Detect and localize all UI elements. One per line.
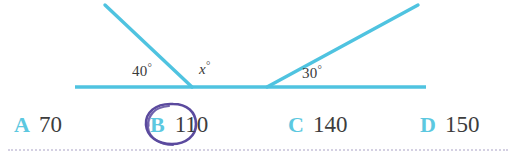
worksheet-question-page: 40° x° 30° A 70 B 110 C 140 D 150 [0,0,523,157]
answer-choice-c[interactable]: C 140 [288,108,347,142]
degree-symbol-right: ° [318,63,323,75]
angle-label-left-value: 40 [132,63,148,79]
degree-symbol-left: ° [148,61,153,73]
answer-choice-a[interactable]: A 70 [14,108,62,142]
degree-symbol-unknown: ° [206,59,211,71]
answer-letter-d: D [420,112,436,138]
answer-choices-row: A 70 B 110 C 140 D 150 [0,108,523,144]
answer-letter-c: C [288,112,304,138]
answer-value-b: 110 [175,112,209,138]
angle-label-left: 40° [132,61,152,80]
answer-value-c: 140 [313,112,348,138]
right-ray [267,5,418,87]
answer-choice-b[interactable]: B 110 [150,108,208,142]
angle-label-unknown: x° [199,59,211,78]
answer-letter-a: A [14,112,30,138]
angle-label-right: 30° [302,63,322,82]
answer-value-a: 70 [39,112,62,138]
answer-value-d: 150 [445,112,480,138]
angle-label-right-value: 30 [302,65,318,81]
answer-letter-b: B [150,112,165,138]
bottom-dotted-separator [8,149,508,153]
answer-choice-d[interactable]: D 150 [420,108,479,142]
angle-label-unknown-variable: x [199,61,206,77]
